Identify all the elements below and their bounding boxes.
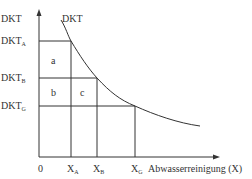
x-g-label: XG: [131, 164, 143, 175]
y-axis-label: DKT: [1, 14, 22, 24]
y-axis-arrow-icon: [37, 9, 42, 16]
x-b-label: XB: [93, 164, 104, 175]
dkt-curve: [61, 20, 200, 126]
dkt-b-sub: B: [22, 78, 26, 84]
dkt-b-label: DKTB: [1, 73, 26, 84]
x-axis-arrow-icon: [213, 155, 220, 160]
dkt-b-base: DKT: [1, 72, 22, 83]
x-axis-label: Abwasserreinigung (X): [148, 164, 242, 174]
area-b-label: b: [51, 88, 56, 98]
area-a-label: a: [51, 56, 55, 66]
dkt-a-base: DKT: [1, 35, 22, 46]
x-b-sub: B: [100, 169, 104, 175]
dkt-g-sub: G: [22, 106, 26, 112]
dkt-g-label: DKTG: [1, 101, 26, 112]
x-g-sub: G: [138, 169, 142, 175]
diagram-canvas: [0, 0, 252, 179]
x-a-sub: A: [74, 169, 78, 175]
dkt-a-sub: A: [22, 41, 26, 47]
curve-label: DKT: [62, 14, 83, 24]
origin-label: 0: [38, 164, 43, 174]
area-c-label: c: [80, 88, 84, 98]
x-a-label: XA: [67, 164, 79, 175]
dkt-g-base: DKT: [1, 100, 22, 111]
dkt-a-label: DKTA: [1, 36, 26, 47]
